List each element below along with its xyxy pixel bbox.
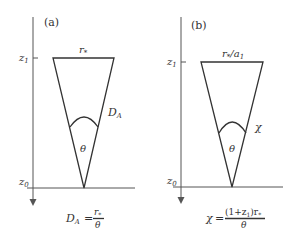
z0-label-b: z0	[166, 175, 177, 188]
svg-text:(1+z1)r*: (1+z1)r*	[225, 207, 261, 218]
panel-label-a: (a)	[44, 16, 59, 29]
angle-arc-a	[70, 117, 98, 127]
z1-label-a: z1	[18, 52, 29, 65]
formula-b: χ = (1+z1)r* θ	[205, 207, 265, 230]
top-label-b: r*/a1	[222, 48, 244, 61]
axis-arrow-b	[178, 197, 185, 204]
svg-text:DA: DA	[65, 212, 80, 226]
svg-text:r*: r*	[94, 207, 101, 218]
top-label-a: r*	[79, 44, 88, 57]
side-label-b: χ	[254, 121, 263, 134]
formula-a: DA = r* θ	[65, 207, 104, 230]
svg-text:=: =	[215, 212, 224, 225]
z1-label-b: z1	[166, 56, 177, 69]
cone-b	[201, 62, 263, 187]
side-label-a: DA	[107, 106, 122, 120]
panel-b: (b) z1 z0 r*/a1 χ θ χ = (1+z1)r* θ	[166, 17, 283, 230]
z0-label-a: z0	[18, 176, 29, 189]
angle-arc-b	[219, 122, 246, 133]
svg-text:θ: θ	[241, 220, 247, 230]
angle-label-b: θ	[229, 143, 235, 154]
angle-label-a: θ	[80, 143, 86, 154]
axis-arrow-a	[30, 199, 37, 206]
panel-a: (a) z1 z0 r* DA θ DA = r* θ	[18, 16, 135, 230]
svg-text:χ: χ	[205, 212, 214, 225]
cone-a	[53, 58, 114, 188]
svg-text:θ: θ	[95, 220, 101, 230]
panel-label-b: (b)	[191, 19, 207, 32]
svg-text:=: =	[84, 212, 93, 225]
